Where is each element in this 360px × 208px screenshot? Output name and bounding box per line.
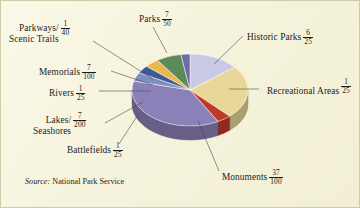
label-historic-parks-fraction: 625 [303,29,313,45]
label-monuments-text: Monuments [222,172,267,183]
label-rivers: Rivers125 [49,85,85,101]
source-note: Source: National Park Service [25,177,124,186]
label-recreational-areas-fraction: 125 [341,78,351,94]
leader-parkways [93,41,153,79]
label-monuments-fraction: 37100 [269,169,282,185]
label-historic-parks-text: Historic Parks [247,32,301,43]
label-memorials-fraction: 7100 [82,64,95,80]
label-battlefields-text: Battlefields [67,145,111,156]
label-parks-fraction: 750 [162,11,172,27]
label-parkways-scenic-trails-fraction: 140 [61,20,71,36]
label-lakes-seashores-text: Lakes/ Seashores [33,115,71,136]
pie-chart-figure: Parks750 Historic Parks625 Recreational … [0,0,360,208]
label-parkways-scenic-trails: Parkways/ Scenic Trails 140 [9,23,70,44]
label-rivers-fraction: 125 [76,85,86,101]
label-parks: Parks750 [139,11,172,27]
pie-top-faces [132,54,248,126]
label-recreational-areas-text: Recreational Areas [267,86,339,97]
source-label: Source: [25,177,50,186]
label-recreational-areas: Recreational Areas 125 [267,83,351,99]
label-battlefields-fraction: 125 [113,142,123,158]
label-parkways-scenic-trails-text: Parkways/ Scenic Trails [9,23,59,44]
label-rivers-text: Rivers [49,88,74,99]
label-memorials-text: Memorials [39,67,80,78]
label-memorials: Memorials7100 [39,64,96,80]
label-lakes-seashores-fraction: 7200 [73,112,86,128]
label-lakes-seashores: Lakes/ Seashores 7200 [33,115,86,136]
leader-parks [153,27,167,53]
label-battlefields: Battlefields125 [67,142,123,158]
label-parks-text: Parks [139,14,160,25]
source-text: National Park Service [52,177,124,186]
label-historic-parks: Historic Parks625 [247,29,313,45]
label-monuments: Monuments37100 [222,169,283,185]
leader-historic [214,36,243,64]
leader-battlefields [119,113,139,144]
